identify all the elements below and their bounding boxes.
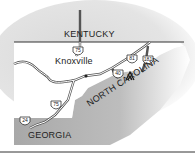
state-label-kentucky: KENTUCKY (64, 29, 115, 39)
state-label-georgia: GEORGIA (28, 130, 71, 140)
highway-24-label: 24 (19, 117, 31, 123)
knoxville-dot (84, 74, 87, 77)
highway-181-label: 181 (142, 56, 154, 62)
highway-75-north-label: 75 (72, 47, 84, 53)
highway-81-label: 81 (126, 55, 138, 61)
map: KENTUCKY NORTH CAROLINA GEORGIA Knoxvill… (0, 0, 195, 156)
highway-40-label: 40 (112, 70, 124, 76)
city-label-knoxville: Knoxville (55, 56, 93, 66)
highway-75-south-label: 75 (50, 101, 62, 107)
